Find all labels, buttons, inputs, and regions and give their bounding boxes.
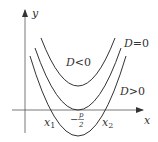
svg-text:−: −: [70, 114, 78, 125]
x-axis-label: x: [144, 114, 151, 127]
y-axis-label: y: [31, 7, 39, 20]
tick-x1: x1: [44, 116, 55, 130]
tick-x2: x2: [102, 116, 113, 130]
parabola-diagram: y x D<0 D=0 D>0 x1 x2 − p 2: [0, 0, 158, 142]
tick-vertex-minus-p-over-2: − p 2: [70, 111, 84, 129]
svg-text:p: p: [79, 111, 84, 119]
label-d-less-than-zero: D<0: [65, 56, 91, 69]
label-d-greater-than-zero: D>0: [119, 85, 145, 98]
label-d-equals-zero: D=0: [123, 37, 149, 50]
svg-text:2: 2: [78, 121, 84, 129]
